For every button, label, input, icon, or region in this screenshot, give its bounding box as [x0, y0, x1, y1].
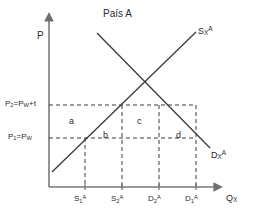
price-label-p1: P1=PW — [8, 133, 32, 142]
x-axis-label-sub: X — [233, 196, 237, 203]
xt2-sup: A — [157, 194, 161, 200]
supply-curve — [52, 32, 196, 172]
p1-rhs: =P — [17, 132, 27, 141]
welfare-region-a: a — [69, 117, 74, 126]
p2-rhs: =P — [14, 99, 24, 108]
welfare-region-d: d — [176, 131, 181, 140]
demand-curve-label: DXA — [211, 150, 226, 161]
supply-label-sup: A — [208, 25, 212, 32]
x-axis-label: QX — [226, 194, 237, 204]
tariff-welfare-diagram: País A P QX SXA DXA P2=PW+t P1=PW a b c … — [0, 0, 253, 218]
xt0-sup: A — [83, 194, 87, 200]
x-tick-label-d1: D1A — [185, 195, 198, 204]
demand-curve — [97, 33, 210, 148]
xt1-sup: A — [120, 194, 124, 200]
x-tick-label-s1: S1A — [74, 195, 86, 204]
supply-curve-label: SXA — [198, 26, 213, 37]
x-tick-label-d2: D2A — [148, 195, 161, 204]
p2-rhs-tail: +t — [29, 99, 36, 108]
x-tick-label-s2: S2A — [111, 195, 123, 204]
demand-label-sup: A — [222, 149, 226, 156]
welfare-region-b: b — [103, 131, 108, 140]
p1-rhs-sub: W — [27, 135, 32, 141]
xt3-sup: A — [194, 194, 198, 200]
chart-title: País A — [103, 9, 132, 19]
price-label-p2: P2=PW+t — [5, 100, 36, 109]
x-axis-label-base: Q — [226, 193, 233, 203]
y-axis-label: P — [37, 31, 44, 41]
welfare-region-c: c — [137, 117, 142, 126]
